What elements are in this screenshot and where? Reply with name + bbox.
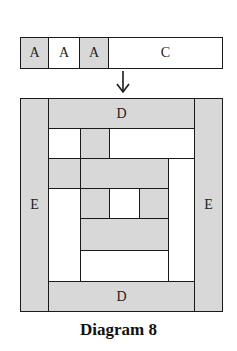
inner-r2-gray-left xyxy=(48,158,81,189)
cell-label: D xyxy=(116,106,126,122)
cell-label: A xyxy=(89,45,99,61)
inner-r3-white-center xyxy=(109,188,140,219)
cell-label: A xyxy=(59,45,69,61)
cell-label: C xyxy=(161,45,170,61)
strip-cell-a3: A xyxy=(79,37,109,69)
down-arrow-icon xyxy=(116,70,130,94)
inner-right-white-column xyxy=(168,158,195,282)
inner-r3-gray-left xyxy=(80,188,110,219)
cell-label: A xyxy=(29,45,39,61)
inner-r5-white xyxy=(80,250,169,282)
inner-left-white-column xyxy=(48,188,81,282)
strip-cell-c: C xyxy=(108,37,223,69)
inner-r4-gray xyxy=(80,218,169,251)
diagram-caption: Diagram 8 xyxy=(0,320,237,340)
strip-cell-a2: A xyxy=(48,37,80,69)
inner-r2-gray-wide xyxy=(80,158,169,189)
inner-r3-gray-right xyxy=(139,188,169,219)
inner-r1-white-right xyxy=(109,128,195,159)
block-e-right: E xyxy=(194,98,223,312)
block-d-top: D xyxy=(48,98,195,129)
cell-label: D xyxy=(116,289,126,305)
block-e-left: E xyxy=(20,98,49,312)
block-d-bottom: D xyxy=(48,281,195,312)
strip-cell-a1: A xyxy=(20,37,49,69)
inner-r1-white-left xyxy=(48,128,81,159)
inner-r1-gray xyxy=(80,128,110,159)
cell-label: E xyxy=(30,197,39,213)
cell-label: E xyxy=(204,197,213,213)
